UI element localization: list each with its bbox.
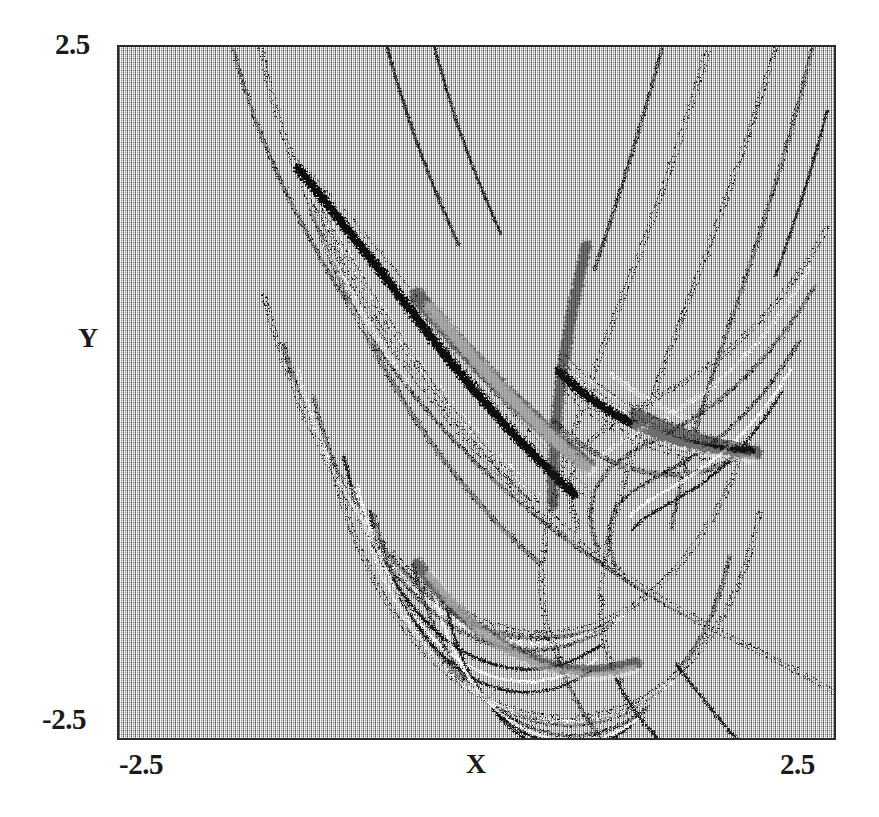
figure-canvas: 2.5 -2.5 -2.5 2.5 X Y	[0, 0, 879, 817]
fractal-basin-boundary	[119, 47, 834, 738]
x-axis-label: X	[466, 748, 486, 780]
y-axis-tick-min: -2.5	[42, 703, 86, 736]
x-axis-tick-max: 2.5	[780, 748, 815, 781]
y-axis-tick-max: 2.5	[55, 28, 90, 61]
plot-area	[117, 45, 836, 740]
x-axis-tick-min: -2.5	[119, 748, 163, 781]
y-axis-label: Y	[78, 322, 98, 354]
